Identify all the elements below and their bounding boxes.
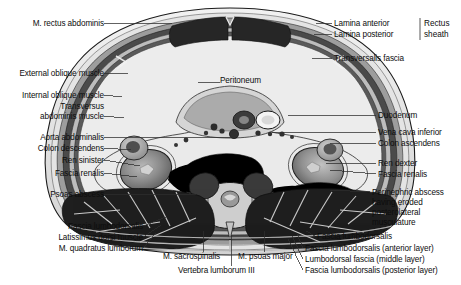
label-colon-descendens: Colon descendens — [0, 144, 104, 154]
label-transversus-line1: Transversus — [0, 102, 104, 112]
label-perinephric-abscess-line2: having eroded — [372, 198, 423, 208]
label-rectus-sheath-line2: sheath — [424, 30, 449, 39]
label-fascia-renalis-left: Fascia renalis — [0, 169, 104, 179]
label-ren-sinister: Ren sinister — [0, 156, 104, 166]
label-latissimus-dorsi-muscle: Latissimus dorsi muscle — [0, 233, 143, 243]
label-duodenum: Duodenum — [378, 111, 417, 121]
label-perinephric-abscess-line4: musculature — [372, 218, 416, 228]
label-fascia-lumbodorsalis-plain: Fascia lumbodorsalis — [317, 232, 392, 242]
label-ren-dexter: Ren dexter — [378, 159, 417, 169]
label-lamina-posterior: Lamina posterior — [334, 30, 393, 40]
label-m-quadratus-lumborum: M. quadratus lumborum — [0, 244, 143, 254]
label-perinephric-abscess-line3: posterolateral — [372, 208, 420, 218]
label-fascia-lumbodorsalis-anterior: Fascia lumbodorsalis (anterior layer) — [305, 244, 434, 254]
label-transversus-line2: abdominis muscle — [0, 112, 104, 122]
label-fascia-renalis-right: Fascia renalis — [378, 170, 427, 180]
label-colon-ascendens: Colon ascendens — [378, 139, 440, 149]
label-m-psoas-major: M. psoas major — [238, 252, 293, 262]
label-internal-oblique-muscle: Internal oblique muscle — [0, 91, 104, 101]
label-psoas-abscess: Psoas abscess — [0, 190, 104, 200]
label-peritoneum: Peritoneum — [220, 76, 261, 86]
label-m-sacrospinalis: M. sacrospinalis — [163, 252, 220, 262]
label-aorta-abdominalis: Aorta abdominalis — [0, 133, 104, 143]
label-rectus-sheath-line1: Rectus — [424, 19, 449, 28]
label-transversalis-fascia: Transversalis fascia — [334, 54, 404, 64]
label-fascia-lumbodorsalis-left: Fascia lumbodorsalis — [0, 222, 143, 232]
label-fascia-lumbodorsalis-posterior: Fascia lumbodorsalis (posterior layer) — [305, 266, 438, 276]
label-lamina-anterior: Lamina anterior — [334, 19, 389, 29]
label-external-oblique-muscle: External oblique muscle — [0, 69, 104, 79]
label-lumbodorsal-fascia-middle: Lumbodorsal fascia (middle layer) — [305, 255, 425, 265]
label-perinephric-abscess-line1: Perinephric abscess — [372, 188, 444, 198]
label-vertebra-lumborum-iii: Vertebra lumborum III — [178, 266, 255, 276]
label-m-rectus-abdominis: M. rectus abdominis — [0, 19, 104, 29]
label-vena-cava-inferior: Vena cava inferior — [378, 128, 442, 138]
anatomy-figure: M. rectus abdominis External oblique mus… — [0, 0, 461, 285]
